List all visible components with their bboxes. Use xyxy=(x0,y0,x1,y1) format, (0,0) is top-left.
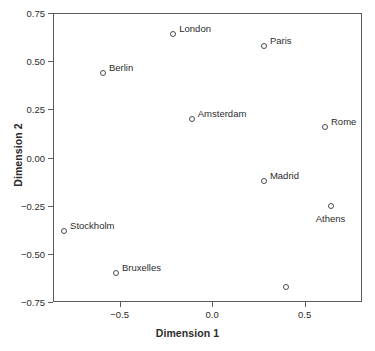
x-tick-mark xyxy=(120,302,121,307)
data-point-label: Madrid xyxy=(270,170,299,181)
y-tick-label: 0.75 xyxy=(11,8,45,19)
y-tick-mark xyxy=(48,206,53,207)
y-tick-mark xyxy=(48,302,53,303)
x-axis-title: Dimension 1 xyxy=(0,327,375,339)
data-point xyxy=(189,116,195,122)
data-point xyxy=(328,203,334,209)
data-point-label: Berlin xyxy=(109,62,133,73)
data-point xyxy=(283,284,289,290)
x-tick-label: −0.5 xyxy=(100,309,140,320)
y-tick-mark xyxy=(48,109,53,110)
x-tick-mark xyxy=(212,302,213,307)
data-point xyxy=(322,124,328,130)
y-tick-mark xyxy=(48,254,53,255)
data-point-label: Athens xyxy=(316,213,346,224)
data-point-label: Amsterdam xyxy=(198,108,247,119)
data-point xyxy=(113,270,119,276)
x-tick-label: 0.0 xyxy=(192,309,232,320)
plot-area xyxy=(53,13,362,302)
data-point-label: Bruxelles xyxy=(122,262,161,273)
data-point xyxy=(261,43,267,49)
y-tick-label: −0.75 xyxy=(11,297,45,308)
y-tick-label: −0.50 xyxy=(11,248,45,259)
y-tick-mark xyxy=(48,158,53,159)
x-tick-label: 0.5 xyxy=(285,309,325,320)
data-point-label: Rome xyxy=(331,116,356,127)
y-tick-mark xyxy=(48,13,53,14)
data-point-label: London xyxy=(179,23,211,34)
y-tick-label: 0.50 xyxy=(11,56,45,67)
y-tick-mark xyxy=(48,61,53,62)
data-point xyxy=(100,70,106,76)
y-axis-title: Dimension 2 xyxy=(12,95,24,215)
data-point-label: Paris xyxy=(270,35,292,46)
x-tick-mark xyxy=(305,302,306,307)
scatter-plot-figure: 0.750.500.250.00−0.25−0.50−0.75 −0.50.00… xyxy=(0,0,375,351)
data-point-label: Stockholm xyxy=(70,220,114,231)
data-point xyxy=(61,228,67,234)
data-point xyxy=(261,178,267,184)
